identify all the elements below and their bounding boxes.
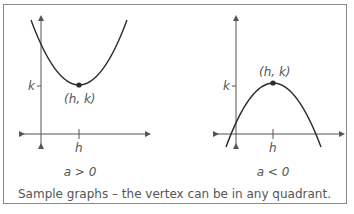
graph-downward — [216, 18, 342, 147]
vertex-point — [270, 80, 275, 85]
condition-label: a < 0 — [257, 166, 290, 178]
h-label: h — [75, 142, 83, 154]
vertex-label: (h, k) — [64, 93, 96, 105]
h-label: h — [269, 142, 277, 154]
figure-caption: Sample graphs – the vertex can be in any… — [18, 187, 331, 201]
k-label: k — [223, 80, 230, 92]
vertex-label: (h, k) — [259, 66, 291, 78]
vertex-point — [76, 82, 81, 87]
parabola-up — [31, 20, 127, 85]
k-label: k — [28, 80, 35, 92]
parabola-diagram — [0, 0, 354, 214]
condition-label: a > 0 — [64, 166, 97, 178]
graph-upward — [22, 18, 148, 146]
